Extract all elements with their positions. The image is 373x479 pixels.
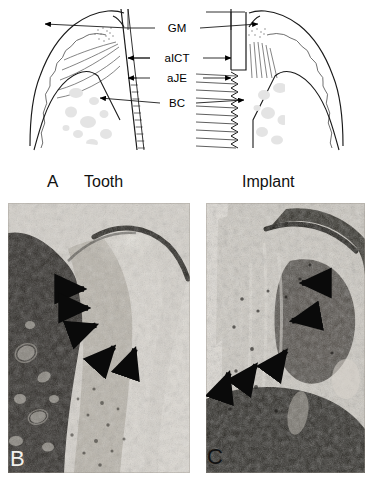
- measure-aict: aICT: [128, 52, 231, 64]
- label-gm: GM: [168, 22, 187, 34]
- panel-b-histology-tooth: [8, 203, 190, 473]
- infiltrate-stipple-implant: [248, 28, 265, 37]
- marrow-spaces-implant: [254, 83, 289, 145]
- measure-aje: aJE: [128, 72, 231, 84]
- tooth-title: Tooth: [84, 173, 123, 191]
- parallel-fibers: [250, 42, 277, 78]
- marrow-spaces: [63, 88, 113, 147]
- label-bc: BC: [169, 97, 185, 109]
- measure-gm: GM: [45, 9, 258, 34]
- implant-schematic: [196, 9, 343, 150]
- implant-threads: [196, 74, 236, 148]
- panel-a-letter: A: [47, 172, 58, 192]
- panel-c-histology-implant: [206, 203, 365, 473]
- caption-row: A Tooth Implant: [0, 172, 373, 198]
- panel-a-diagram: GM aICT aJE BC: [0, 0, 373, 165]
- panel-c-letter: C: [207, 446, 223, 468]
- implant-title: Implant: [242, 173, 294, 191]
- tooth-schematic: [30, 9, 145, 150]
- panel-b-letter: B: [10, 448, 25, 470]
- label-aje: aJE: [167, 72, 187, 84]
- label-aict: aICT: [165, 52, 190, 64]
